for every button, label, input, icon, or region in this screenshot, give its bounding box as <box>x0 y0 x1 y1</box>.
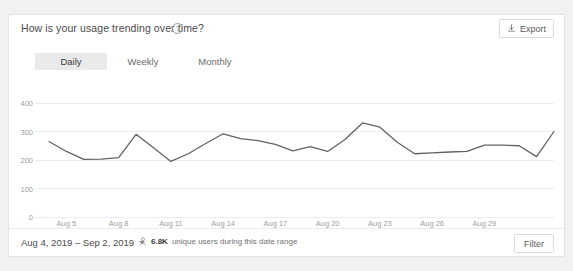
person-icon <box>139 237 147 246</box>
x-tick-label: Aug 20 <box>316 219 340 228</box>
usage-trend-card: How is your usage trending over time? ? … <box>8 14 565 257</box>
filter-button-label: Filter <box>524 239 544 249</box>
x-tick-label: Aug 5 <box>57 219 77 228</box>
tab-monthly[interactable]: Monthly <box>179 53 251 70</box>
usage-line-chart <box>9 87 566 227</box>
filter-button[interactable]: Filter <box>514 234 554 253</box>
x-tick-label: Aug 11 <box>159 219 182 228</box>
y-tick-label: 400 <box>11 99 33 108</box>
y-tick-label: 300 <box>11 127 33 136</box>
tab-daily[interactable]: Daily <box>35 53 107 70</box>
chart-plot-area: 0100200300400 <box>9 87 566 227</box>
card-footer: Aug 4, 2019 – Sep 2, 2019 6.8K unique us… <box>9 228 564 256</box>
unique-users-value: 6.8K <box>151 237 168 246</box>
x-tick-label: Aug 29 <box>472 219 496 228</box>
x-tick-label: Aug 17 <box>263 219 287 228</box>
x-tick-label: Aug 26 <box>420 219 444 228</box>
export-button-label: Export <box>520 24 546 34</box>
y-tick-label: 100 <box>11 184 33 193</box>
unique-users-stat: 6.8K unique users during this date range <box>139 237 297 246</box>
export-icon <box>507 24 516 33</box>
card-header: How is your usage trending over time? ? … <box>9 15 564 43</box>
x-tick-label: Aug 23 <box>368 219 392 228</box>
help-circle-icon[interactable]: ? <box>172 23 183 34</box>
x-tick-label: Aug 8 <box>109 219 129 228</box>
y-tick-label: 200 <box>11 156 33 165</box>
export-button[interactable]: Export <box>499 19 554 38</box>
date-range-selector[interactable]: Aug 4, 2019 – Sep 2, 2019 <box>21 237 145 248</box>
granularity-tabs: Daily Weekly Monthly <box>35 53 251 70</box>
tab-weekly[interactable]: Weekly <box>107 53 179 70</box>
date-range-label: Aug 4, 2019 – Sep 2, 2019 <box>21 237 134 248</box>
x-tick-label: Aug 14 <box>211 219 235 228</box>
unique-users-text: unique users during this date range <box>172 237 297 246</box>
